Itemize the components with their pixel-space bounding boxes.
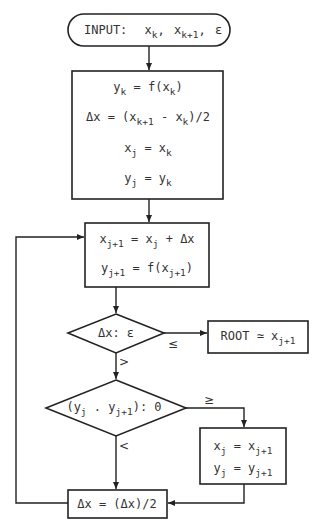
input-terminal: INPUT: xk, xk+1, ε <box>68 14 230 46</box>
flowchart: INPUT: xk, xk+1, ε yk = f(xk) Δx = (xk+1… <box>0 0 322 530</box>
loop-back-connector <box>16 237 84 503</box>
decision-dx-epsilon: Δx: ε ≤ > <box>68 314 178 369</box>
label-gt: > <box>119 355 129 369</box>
halve-text: Δx = (Δx)/2 <box>77 497 156 511</box>
halve-process-box: Δx = (Δx)/2 <box>68 490 167 518</box>
label-le: ≤ <box>168 337 178 351</box>
update-process-box: xj = xj+1 yj = yj+1 <box>200 428 286 484</box>
label-lt: < <box>119 439 129 453</box>
step-process-box: xj+1 = xj + Δx yj+1 = f(xj+1) <box>85 223 209 287</box>
connector-test-sign-update <box>186 408 244 427</box>
label-ge: ≥ <box>204 393 214 407</box>
decision-dx-epsilon-text: Δx: ε <box>98 326 134 340</box>
connector-update-halve <box>168 484 244 503</box>
root-output-box: ROOT ≃ xj+1 <box>208 321 308 353</box>
init-process-box: yk = f(xk) Δx = (xk+1 - xk)/2 xj = xk yj… <box>72 71 223 199</box>
decision-sign-test: (yj . yj+1): 0 ≥ < <box>46 380 214 453</box>
